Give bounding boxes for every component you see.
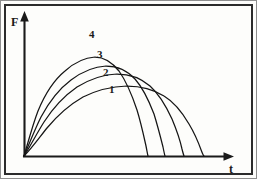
x-axis-arrowhead — [224, 152, 235, 161]
force-time-plot: F t 4 3 2 1 — [1, 1, 257, 179]
curve-label-3: 3 — [97, 48, 103, 60]
curve-4 — [24, 57, 148, 156]
figure-frame: F t 4 3 2 1 — [0, 0, 257, 179]
y-axis-arrowhead — [20, 11, 29, 22]
curve-2 — [24, 74, 184, 156]
curve-1 — [24, 86, 204, 156]
curve-3 — [24, 66, 165, 156]
x-axis-label: t — [229, 162, 233, 176]
y-axis-label: F — [11, 15, 18, 29]
curve-label-4: 4 — [89, 28, 95, 40]
curve-label-1: 1 — [109, 83, 115, 95]
curve-label-2: 2 — [103, 66, 109, 78]
